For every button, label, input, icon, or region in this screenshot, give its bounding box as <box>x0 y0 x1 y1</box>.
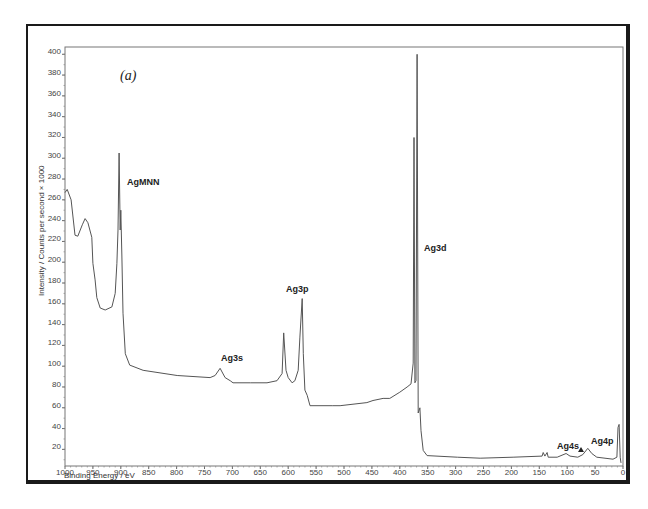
x-tick-label: 100 <box>561 468 575 477</box>
peak-label-ag3d: Ag3d <box>424 243 447 253</box>
y-tick-label: 240 <box>48 214 62 223</box>
x-tick-label: 350 <box>421 468 435 477</box>
x-tick-label: 450 <box>365 468 379 477</box>
y-tick-label: 320 <box>48 130 62 139</box>
y-tick-label: 40 <box>52 422 61 431</box>
x-tick-label: 300 <box>449 468 463 477</box>
peak-labels: AgMNNAg3sAg3pAg3dAg4sAg4p <box>127 177 614 452</box>
y-tick-label: 140 <box>48 318 62 327</box>
x-tick-label: 400 <box>393 468 407 477</box>
x-tick-label: 500 <box>337 468 351 477</box>
peak-label-ag3s: Ag3s <box>221 353 243 363</box>
y-tick-label: 160 <box>48 297 62 306</box>
panel-label: (a) <box>120 68 137 84</box>
x-tick-label: 600 <box>282 468 296 477</box>
spectrum-line <box>65 54 621 463</box>
y-tick-label: 20 <box>52 442 61 451</box>
plot-border <box>65 47 623 466</box>
x-tick-label: 200 <box>505 468 519 477</box>
x-tick-label: 550 <box>309 468 323 477</box>
x-axis-title: Binding Energy / eV <box>64 471 135 480</box>
x-tick-label: 250 <box>477 468 491 477</box>
xps-spectrum-chart: 2040608010012014016018020022024026028030… <box>0 0 648 509</box>
y-tick-label: 120 <box>48 338 62 347</box>
x-tick-label: 150 <box>533 468 547 477</box>
y-axis-title: Intensity / Counts per second × 1000 <box>37 165 46 296</box>
y-tick-label: 60 <box>52 401 61 410</box>
x-tick-label: 700 <box>226 468 240 477</box>
y-axis: 2040608010012014016018020022024026028030… <box>48 47 65 459</box>
x-tick-label: 750 <box>198 468 212 477</box>
peak-label-agmnn: AgMNN <box>127 177 160 187</box>
plot-area <box>65 47 623 466</box>
y-tick-label: 80 <box>52 380 61 389</box>
x-tick-label: 800 <box>170 468 184 477</box>
y-tick-label: 380 <box>48 68 62 77</box>
x-tick-label: 50 <box>591 468 600 477</box>
x-axis: 1000950900850800750700650600550500450400… <box>56 466 626 477</box>
peak-label-ag3p: Ag3p <box>286 284 309 294</box>
y-tick-label: 200 <box>48 255 62 264</box>
y-tick-label: 280 <box>48 172 62 181</box>
y-tick-label: 360 <box>48 89 62 98</box>
y-tick-label: 180 <box>48 276 62 285</box>
peak-label-ag4s: Ag4s <box>557 441 579 451</box>
y-tick-label: 300 <box>48 151 62 160</box>
peak-label-ag4p: Ag4p <box>591 436 614 446</box>
x-tick-label: 650 <box>254 468 268 477</box>
y-tick-label: 260 <box>48 193 62 202</box>
x-tick-label: 850 <box>142 468 156 477</box>
y-tick-label: 220 <box>48 234 62 243</box>
y-tick-label: 340 <box>48 110 62 119</box>
y-tick-label: 400 <box>48 47 62 56</box>
x-tick-label: 0 <box>621 468 626 477</box>
y-tick-label: 100 <box>48 359 62 368</box>
